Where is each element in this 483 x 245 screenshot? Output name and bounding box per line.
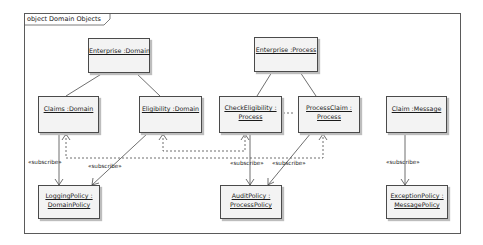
node-enterprise-domain[interactable]: Enterprise :Domain	[88, 38, 150, 73]
subscribe-label-check-eligibility: «subscribe»	[230, 160, 264, 166]
node-eligibility-domain[interactable]: Eligibility :Domain	[139, 96, 202, 133]
node-label: Eligibility :Domain	[140, 104, 201, 113]
node-label-line2: MessagePolicy	[387, 200, 447, 209]
node-label-line1: AuditPolicy :	[221, 191, 281, 200]
frame-title: object Domain Objects	[24, 13, 101, 25]
node-claim-message[interactable]: Claim :Message	[386, 96, 447, 133]
node-label-line1: CheckEligibility :	[220, 103, 281, 112]
node-exception-policy[interactable]: ExceptionPolicy : MessagePolicy	[386, 185, 448, 219]
node-label-line1: LoggingPolicy :	[39, 191, 99, 200]
node-label-line1: ExceptionPolicy :	[387, 191, 447, 200]
node-audit-policy[interactable]: AuditPolicy : ProcessPolicy	[220, 185, 282, 219]
node-claims-domain[interactable]: Claims :Domain	[38, 96, 99, 133]
node-label: Enterprise :Process	[255, 45, 317, 54]
node-process-claim-process[interactable]: ProcessClaim : Process	[298, 96, 360, 133]
node-label-line2: Process	[220, 112, 281, 121]
subscribe-label-claim-message: «subscribe»	[386, 159, 420, 165]
node-label-line1: ProcessClaim :	[299, 103, 359, 112]
node-logging-policy[interactable]: LoggingPolicy : DomainPolicy	[38, 185, 100, 219]
node-label: Claims :Domain	[39, 104, 98, 113]
object-diagram: object Domain Objects Enterprise :Domain…	[0, 0, 483, 245]
node-enterprise-process[interactable]: Enterprise :Process	[254, 37, 318, 72]
node-check-eligibility-process[interactable]: CheckEligibility : Process	[219, 96, 282, 133]
subscribe-label-logging: «subscribe»	[28, 159, 62, 165]
subscribe-label-process-claim: «subscribe»	[272, 160, 306, 166]
node-label-line2: DomainPolicy	[39, 200, 99, 209]
node-label: Enterprise :Domain	[89, 46, 149, 55]
node-label: Claim :Message	[387, 104, 446, 113]
node-label-line2: ProcessPolicy	[221, 200, 281, 209]
node-label-line2: Process	[299, 112, 359, 121]
subscribe-label-eligibility: «subscribe»	[88, 163, 122, 169]
